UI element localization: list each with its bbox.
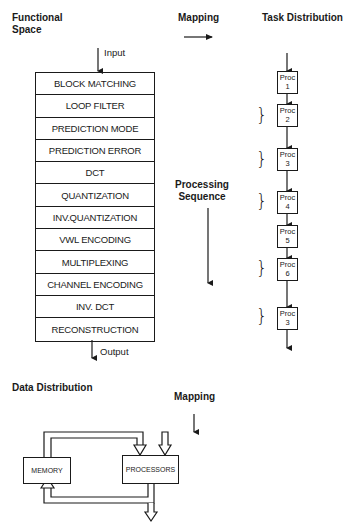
proc-box-5: Proc 5 [277,225,298,248]
bracket-icon: } [256,192,267,210]
bracket-icon: } [256,106,267,124]
bracket-icon: } [256,259,267,277]
bracket-icon: } [256,150,267,168]
proc-box-4: Proc 4 [277,191,298,214]
proc-number: 1 [278,83,297,92]
proc-number: 4 [278,203,297,212]
memory-block: MEMORY [23,457,71,484]
connector-lines [0,0,355,527]
proc-box-2: Proc 2 [277,104,298,127]
proc-number: 5 [278,237,297,246]
proc-box-1: Proc 1 [277,71,298,94]
proc-number: 6 [278,270,297,279]
bracket-icon: } [256,307,267,325]
proc-box-3-repeat: Proc 3 [277,307,298,330]
proc-box-3: Proc 3 [277,148,298,171]
proc-number: 2 [278,116,297,125]
proc-number: 3 [278,160,297,169]
proc-box-6: Proc 6 [277,258,298,281]
processors-block: PROCESSORS [122,455,179,484]
proc-number: 3 [278,319,297,328]
